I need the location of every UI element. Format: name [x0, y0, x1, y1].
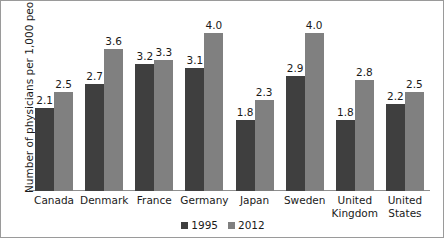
- bar-group: 3.14.0: [185, 9, 223, 191]
- category-label-france: France: [129, 194, 179, 207]
- bar-value-label: 2.9: [287, 62, 304, 74]
- bar-value-label: 4.0: [206, 19, 223, 31]
- bar-2012-germany: 4.0: [204, 33, 223, 191]
- bar-2012-united-states: 2.5: [405, 92, 424, 191]
- bar-1995-canada: 2.1: [35, 108, 54, 191]
- bar-value-label: 3.1: [187, 54, 204, 66]
- category-label-canada: Canada: [29, 194, 79, 207]
- bar-value-label: 2.3: [256, 86, 273, 98]
- bar-pair: 2.73.6: [85, 9, 123, 191]
- bar-pair: 2.22.5: [386, 9, 424, 191]
- bar-group: 2.12.5: [35, 9, 73, 191]
- bar-pair: 1.82.3: [236, 9, 274, 191]
- bar-value-label: 1.8: [337, 106, 354, 118]
- bar-value-label: 2.8: [356, 66, 373, 78]
- bar-value-label: 2.2: [387, 90, 404, 102]
- bar-1995-denmark: 2.7: [85, 84, 104, 191]
- bar-2012-canada: 2.5: [54, 92, 73, 191]
- legend-label: 1995: [191, 219, 218, 231]
- bar-1995-united-states: 2.2: [386, 104, 405, 191]
- category-label-germany: Germany: [179, 194, 229, 207]
- bar-value-label: 3.6: [105, 35, 122, 47]
- legend-label: 2012: [238, 219, 265, 231]
- category-label-sweden: Sweden: [280, 194, 330, 207]
- bar-2012-sweden: 4.0: [305, 33, 324, 191]
- bar-group: 1.82.3: [236, 9, 274, 191]
- bar-pair: 1.82.8: [336, 9, 374, 191]
- bar-value-label: 3.2: [136, 50, 153, 62]
- bar-1995-france: 3.2: [135, 64, 154, 191]
- bar-value-label: 4.0: [306, 19, 323, 31]
- legend-swatch-2012: [228, 222, 235, 229]
- category-label-united-kingdom: United Kingdom: [330, 194, 380, 219]
- bar-1995-germany: 3.1: [185, 68, 204, 191]
- bar-pair: 2.12.5: [35, 9, 73, 191]
- legend-item-1995[interactable]: 1995: [181, 219, 218, 231]
- bar-value-label: 2.1: [36, 94, 53, 106]
- bar-value-label: 1.8: [237, 106, 254, 118]
- bar-pair: 3.23.3: [135, 9, 173, 191]
- bar-value-label: 2.7: [86, 70, 103, 82]
- bar-value-label: 2.5: [406, 78, 423, 90]
- bar-2012-japan: 2.3: [255, 100, 274, 191]
- bar-pair: 2.94.0: [286, 9, 324, 191]
- bar-group: 3.23.3: [135, 9, 173, 191]
- bar-1995-sweden: 2.9: [286, 76, 305, 191]
- bar-2012-united-kingdom: 2.8: [355, 80, 374, 191]
- category-label-united-states: United States: [380, 194, 430, 219]
- legend-swatch-1995: [181, 222, 188, 229]
- bar-group: 2.94.0: [286, 9, 324, 191]
- bar-group: 2.22.5: [386, 9, 424, 191]
- bar-group: 1.82.8: [336, 9, 374, 191]
- bar-pair: 3.14.0: [185, 9, 223, 191]
- category-label-denmark: Denmark: [79, 194, 129, 207]
- bar-2012-denmark: 3.6: [104, 49, 123, 191]
- legend-item-2012[interactable]: 2012: [228, 219, 265, 231]
- bar-2012-france: 3.3: [154, 60, 173, 191]
- category-label-japan: Japan: [230, 194, 280, 207]
- bar-group: 2.73.6: [85, 9, 123, 191]
- bar-1995-united-kingdom: 1.8: [336, 120, 355, 191]
- bar-value-label: 2.5: [55, 78, 72, 90]
- bar-chart: Number of physicians per 1,000 people 2.…: [0, 0, 444, 238]
- bar-1995-japan: 1.8: [236, 120, 255, 191]
- chart-legend: 19952012: [1, 219, 444, 231]
- bar-value-label: 3.3: [155, 46, 172, 58]
